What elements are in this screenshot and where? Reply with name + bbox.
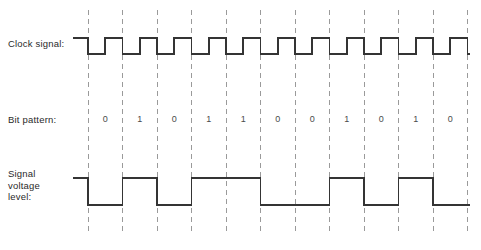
bit-value: 0 — [310, 114, 315, 124]
clock-signal-trace — [73, 38, 470, 54]
waveform-canvas: 01011001010 — [0, 0, 481, 250]
bit-value: 1 — [206, 114, 211, 124]
bit-value: 1 — [137, 114, 142, 124]
bit-value: 0 — [103, 114, 108, 124]
signal-voltage-trace — [73, 178, 470, 205]
bit-value: 0 — [448, 114, 453, 124]
bit-value: 1 — [241, 114, 246, 124]
bit-value: 1 — [344, 114, 349, 124]
timing-diagram: Clock signal: Bit pattern: Signal voltag… — [0, 0, 481, 250]
bit-pattern-digits: 01011001010 — [103, 114, 453, 124]
bit-value: 1 — [413, 114, 418, 124]
bit-value: 0 — [172, 114, 177, 124]
bit-value: 0 — [379, 114, 384, 124]
bit-value: 0 — [275, 114, 280, 124]
